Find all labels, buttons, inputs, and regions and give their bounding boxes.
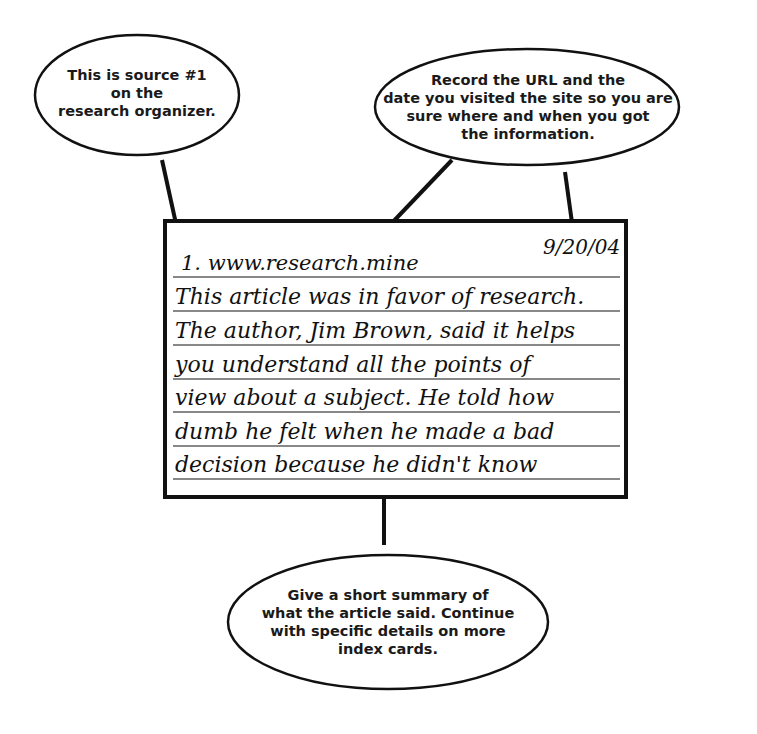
summary-line: you understand all the points of <box>175 352 531 377</box>
card-rule <box>173 478 620 480</box>
card-rule <box>173 411 620 413</box>
card-rule <box>173 276 620 278</box>
card-rule <box>173 344 620 346</box>
card-rule <box>173 378 620 380</box>
card-rule <box>173 310 620 312</box>
visit-date: 9/20/04 <box>543 235 620 259</box>
summary-line: view about a subject. He told how <box>175 385 554 410</box>
callout-line: what the article said. Continue <box>238 604 538 622</box>
callout-line: with specific details on more <box>238 622 538 640</box>
source-callout-text: This is source #1 on the research organi… <box>42 66 232 120</box>
callout-line: sure where and when you got <box>380 107 676 125</box>
source-url: 1. www.research.mine <box>181 251 419 275</box>
card-rule <box>173 445 620 447</box>
callout-line: Record the URL and the <box>380 71 676 89</box>
index-card: 1. www.research.mine 9/20/04 This articl… <box>163 219 628 499</box>
callout-line: date you visited the site so you are <box>380 89 676 107</box>
callout-line: the information. <box>380 125 676 143</box>
summary-callout-text: Give a short summary of what the article… <box>238 586 538 658</box>
summary-line: The author, Jim Brown, said it helps <box>175 318 575 343</box>
callout-line: on the <box>42 84 232 102</box>
summary-line: This article was in favor of research. <box>175 284 584 309</box>
callout-line: Give a short summary of <box>238 586 538 604</box>
callout-line: research organizer. <box>42 102 232 120</box>
callout-line: index cards. <box>238 640 538 658</box>
callout-line: This is source #1 <box>42 66 232 84</box>
summary-line: decision because he didn't know <box>175 452 537 477</box>
url-date-callout-text: Record the URL and the date you visited … <box>380 71 676 143</box>
summary-line: dumb he felt when he made a bad <box>175 419 554 444</box>
